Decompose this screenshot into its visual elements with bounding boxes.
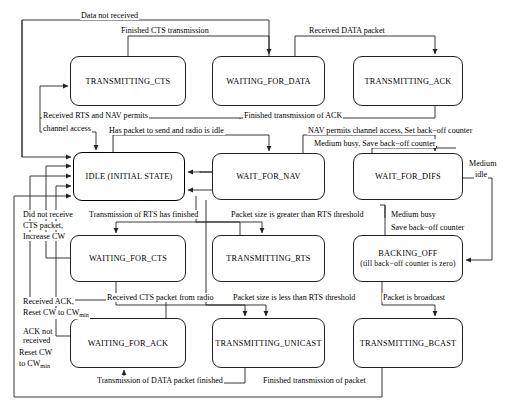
state-transmitting-unicast[interactable]: TRANSMITTING_UNICAST [212, 318, 325, 368]
edge-label-packet-greater-rts: Packet size is greater than RTS threshol… [230, 210, 365, 219]
edge-label-medium-busy-line1: Medium busy [390, 210, 437, 219]
edge-label-nav-permits-channel-access: NAV permits channel access, Set back−off… [307, 126, 473, 135]
state-transmitting-bcast[interactable]: TRANSMITTING_BCAST [353, 318, 463, 368]
edge-label-received-data-packet: Received DATA packet [308, 26, 386, 35]
state-label: BACKING_OFF [378, 249, 437, 258]
edge-label-finished-cts-transmission: Finished CTS transmission [120, 26, 210, 35]
state-waiting-for-ack[interactable]: WAITING_FOR_ACK [70, 318, 186, 368]
state-transmitting-ack[interactable]: TRANSMITTING_ACK [353, 56, 463, 106]
state-backing-off[interactable]: BACKING_OFF (till back−off counter is ze… [353, 235, 463, 282]
reset-cw-text: Reset CW to CW [23, 308, 79, 317]
state-sublabel: (till back−off counter is zero) [360, 259, 456, 268]
edge-label-transmission-rts-finished: Transmission of RTS has finished [88, 210, 199, 219]
state-label: WAIT_FOR_NAV [236, 172, 300, 181]
state-label: TRANSMITTING_BCAST [360, 339, 457, 348]
edge-label-finished-transmission-pkt: Finished transmission of packet [262, 376, 367, 385]
state-transmitting-rts[interactable]: TRANSMITTING_RTS [212, 235, 325, 282]
state-wait-for-nav[interactable]: WAIT_FOR_NAV [212, 153, 325, 200]
edge-label-did-not-receive-cts-line1: Did not receive [22, 210, 74, 219]
edge-label-received-ack-line1: Received ACK, [22, 297, 75, 306]
state-transmitting-cts[interactable]: TRANSMITTING_CTS [70, 56, 186, 106]
state-label: IDLE (INITIAL STATE) [86, 172, 173, 181]
state-label: WAIT_FOR_DIFS [375, 172, 441, 181]
edge-label-did-not-receive-cts-line3: Increase CW [22, 232, 66, 241]
edge-label-did-not-receive-cts-line2: CTS packet, [22, 221, 64, 230]
state-label: WAITING_FOR_ACK [88, 339, 168, 348]
reset-cw-text: to CW [19, 359, 40, 368]
edge-label-medium-idle-line1: Medium [468, 159, 497, 168]
edge-label-reset-cw-left-line1: Reset CW [18, 348, 53, 357]
edge-label-data-not-received: Data not received [80, 11, 139, 20]
edge-label-transmission-data-finished: Transmission of DATA packet finished [96, 376, 224, 385]
state-label: WAITING_FOR_CTS [89, 254, 167, 263]
state-label: TRANSMITTING_RTS [226, 254, 310, 263]
state-label: WAITING_FOR_DATA [226, 77, 311, 86]
edge-label-finished-transmission-ack: Finished transmission of ACK [243, 111, 343, 120]
state-label: TRANSMITTING_ACK [364, 77, 451, 86]
reset-cw-subscript: min [40, 362, 50, 369]
state-idle-initial[interactable]: IDLE (INITIAL STATE) [73, 152, 185, 201]
edge-label-received-rts-nav-line2: channel access [42, 124, 92, 133]
edge-label-reset-cw-to-cwmin-top: Reset CW to CWmin [22, 308, 90, 319]
edge-label-ack-not-received-line2: received [22, 336, 51, 345]
reset-cw-text: Reset CW [19, 348, 52, 357]
edge-label-ack-not-received-line1: ACK not [22, 327, 53, 336]
edge-label-medium-busy-save-counter: Medium busy, Save back−off counter [313, 139, 436, 148]
reset-cw-subscript: min [79, 311, 89, 318]
edge-label-medium-busy-line2: Save back−off counter [390, 223, 465, 232]
state-waiting-for-cts[interactable]: WAITING_FOR_CTS [70, 235, 186, 282]
state-label: TRANSMITTING_CTS [86, 77, 171, 86]
edge-label-reset-cw-left-line2: to CWmin [18, 359, 51, 370]
state-label: TRANSMITTING_UNICAST [215, 339, 321, 348]
state-waiting-for-data[interactable]: WAITING_FOR_DATA [212, 56, 325, 106]
edge-label-received-rts-nav-line1: Received RTS and NAV permits [42, 111, 149, 120]
edge-label-has-packet-to-send: Has packet to send and radio is idle [108, 126, 225, 135]
edge-label-packet-is-broadcast: Packet is broadcast [382, 293, 446, 302]
edge-label-packet-less-rts: Packet size is less than RTS threshold [232, 293, 356, 302]
edge-label-received-cts-from-radio: Received CTS packet from radio [106, 293, 215, 302]
state-wait-for-difs[interactable]: WAIT_FOR_DIFS [353, 153, 463, 200]
state-diagram-canvas: TRANSMITTING_CTS WAITING_FOR_DATA TRANSM… [0, 0, 518, 408]
edge-label-medium-idle-line2: idle [474, 170, 488, 179]
